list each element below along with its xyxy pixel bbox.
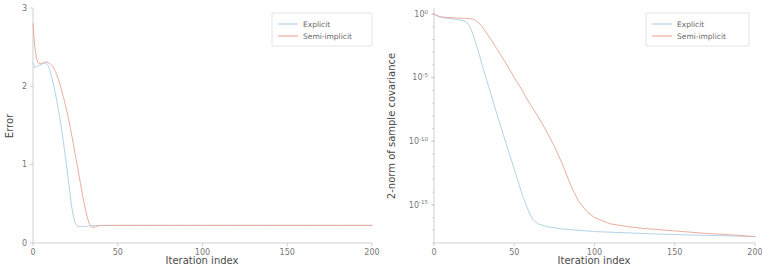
x-tick-label: 0 (30, 248, 35, 257)
error-series-group (33, 24, 372, 228)
series-line-explicit (434, 14, 755, 237)
covariance-series-group (434, 14, 755, 237)
chart-panel-error: 0123 050100150200 Iteration index Error … (0, 0, 381, 269)
y-tick-label: 10-5 (412, 72, 428, 82)
error-y-ticks: 0123 (22, 4, 33, 248)
covariance-legend-box (646, 13, 749, 46)
covariance-legend-label-semi-implicit: Semi-implicit (677, 32, 726, 41)
y-tick-label: 2 (22, 82, 27, 91)
y-tick-label: 100 (414, 9, 428, 19)
y-tick-label: 0 (22, 239, 27, 248)
error-plot-svg: 0123 050100150200 Iteration index Error … (0, 0, 381, 269)
x-tick-label: 0 (431, 248, 436, 257)
y-tick-label: 10-15 (409, 199, 429, 209)
x-tick-label: 200 (747, 248, 762, 257)
error-legend: Explicit Semi-implicit (272, 13, 372, 46)
y-tick-label: 10-10 (409, 136, 429, 146)
covariance-legend-label-explicit: Explicit (677, 20, 704, 29)
series-line-semi-implicit (33, 24, 372, 228)
y-tick-label: 3 (22, 4, 27, 13)
error-legend-label-semi-implicit: Semi-implicit (303, 32, 352, 41)
x-tick-label: 150 (280, 248, 295, 257)
x-tick-label: 150 (667, 248, 682, 257)
covariance-xaxis-title: Iteration index (558, 255, 631, 266)
x-tick-label: 50 (113, 248, 123, 257)
chart-panel-covariance: 10010-510-1010-15 050100150200 Iteration… (381, 0, 762, 269)
error-yaxis-title: Error (4, 113, 15, 138)
y-tick-label: 1 (22, 160, 27, 169)
covariance-plot-svg: 10010-510-1010-15 050100150200 Iteration… (381, 0, 762, 269)
covariance-yaxis-title: 2-norm of sample covariance (386, 53, 397, 199)
figure-row: 0123 050100150200 Iteration index Error … (0, 0, 762, 269)
error-xaxis-title: Iteration index (166, 255, 239, 266)
error-legend-label-explicit: Explicit (303, 20, 330, 29)
covariance-y-ticks: 10010-510-1010-15 (409, 9, 434, 243)
x-tick-label: 200 (364, 248, 379, 257)
covariance-legend: Explicit Semi-implicit (646, 13, 749, 46)
error-legend-box (272, 13, 372, 46)
x-tick-label: 50 (509, 248, 519, 257)
series-line-semi-implicit (434, 14, 755, 237)
